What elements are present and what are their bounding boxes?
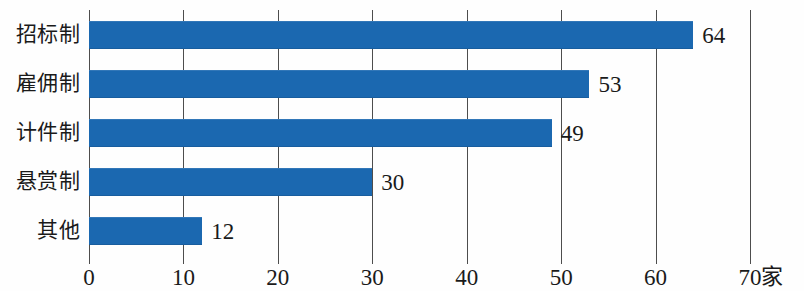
x-tick-label: 70	[739, 266, 762, 289]
category-label-slot: 悬赏制	[0, 157, 86, 206]
x-tick-label: 20	[266, 266, 289, 289]
x-tick-label: 30	[361, 266, 384, 289]
x-tick-label: 60	[644, 266, 667, 289]
category-label-slot: 雇佣制	[0, 59, 86, 108]
category-label: 其他	[37, 220, 80, 241]
category-axis-labels: 招标制 雇佣制 计件制 悬赏制 其他	[0, 10, 86, 255]
bar-chart-figure: 招标制 雇佣制 计件制 悬赏制 其他 64 53 49	[0, 0, 804, 291]
x-tick-mark	[656, 255, 657, 264]
category-label-slot: 计件制	[0, 108, 86, 157]
gridline	[750, 10, 751, 255]
category-label-slot: 招标制	[0, 10, 86, 59]
x-tick-mark	[89, 255, 90, 264]
bar-row: 30	[89, 157, 750, 206]
x-axis: 010203040506070	[89, 255, 750, 291]
category-label: 招标制	[16, 24, 81, 45]
bar-row: 12	[89, 206, 750, 255]
x-tick-label: 0	[83, 266, 95, 289]
bar-value-label: 12	[211, 219, 234, 242]
x-tick-mark	[183, 255, 184, 264]
bar-value-label: 49	[561, 121, 584, 144]
bar	[89, 70, 589, 98]
x-tick-mark	[750, 255, 751, 264]
x-tick-mark	[278, 255, 279, 264]
category-label: 雇佣制	[16, 73, 81, 94]
category-label-slot: 其他	[0, 206, 86, 255]
x-tick-label: 40	[455, 266, 478, 289]
bar	[89, 217, 202, 245]
bar-series: 64 53 49 30 12	[89, 10, 750, 255]
category-label: 悬赏制	[16, 171, 81, 192]
bar-value-label: 64	[702, 23, 725, 46]
category-label: 计件制	[16, 122, 81, 143]
axis-unit-label: 家	[761, 266, 783, 288]
bar-row: 49	[89, 108, 750, 157]
x-tick-label: 10	[172, 266, 195, 289]
bar-row: 53	[89, 59, 750, 108]
x-tick-label: 50	[550, 266, 573, 289]
bar-value-label: 53	[598, 72, 621, 95]
bar	[89, 119, 552, 147]
bar-row: 64	[89, 10, 750, 59]
x-tick-mark	[561, 255, 562, 264]
bar	[89, 168, 372, 196]
bar-value-label: 30	[381, 170, 404, 193]
x-tick-mark	[372, 255, 373, 264]
bar	[89, 21, 693, 49]
plot-area: 64 53 49 30 12	[89, 10, 750, 255]
x-tick-mark	[467, 255, 468, 264]
